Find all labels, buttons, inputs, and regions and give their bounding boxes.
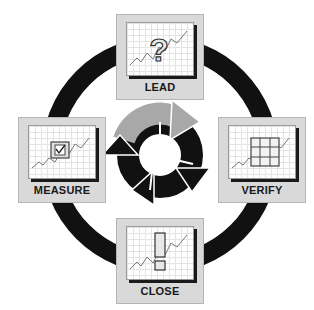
cycle-diagram: ? LEAD VERIFY CLOSE	[0, 0, 314, 310]
svg-text:?: ?	[149, 32, 169, 68]
step-label: MEASURE	[19, 184, 105, 196]
step-label: VERIFY	[219, 184, 305, 196]
step-label: LEAD	[117, 81, 203, 93]
step-measure: MEASURE	[18, 117, 106, 203]
center-cycle-arrows	[102, 100, 210, 205]
step-lead: ? LEAD	[116, 14, 204, 100]
step-label: CLOSE	[117, 285, 203, 297]
step-close: CLOSE	[116, 218, 204, 304]
step-verify: VERIFY	[218, 117, 306, 203]
